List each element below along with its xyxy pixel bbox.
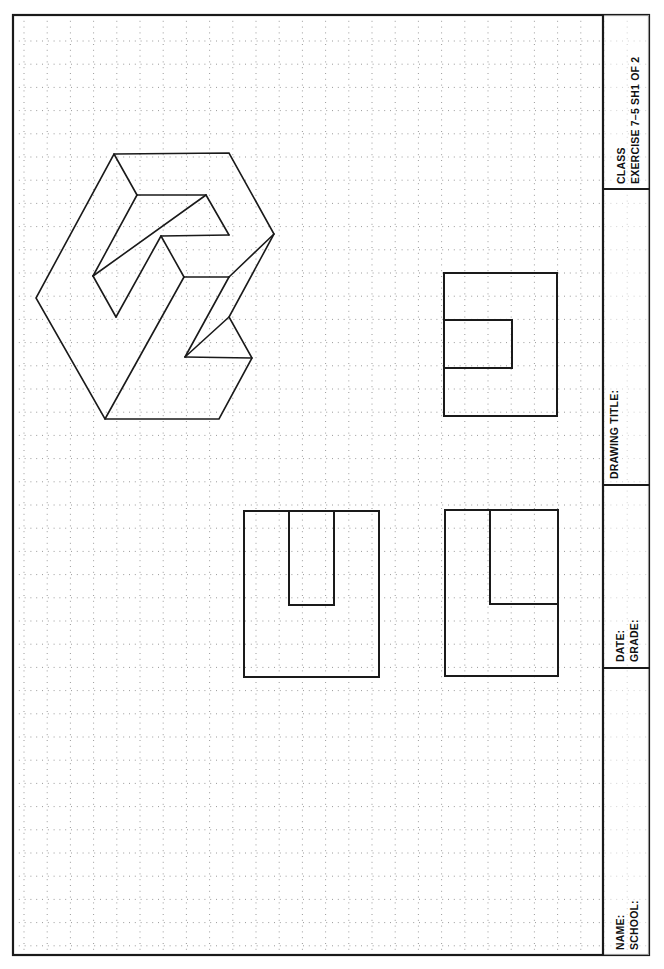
dot-grid bbox=[13, 15, 649, 955]
isometric-edge bbox=[161, 235, 229, 236]
side-view bbox=[445, 510, 558, 676]
isometric-edge bbox=[185, 357, 252, 358]
isometric-edge bbox=[206, 195, 229, 235]
date-label: DATE: bbox=[614, 630, 626, 662]
isometric-edge bbox=[114, 154, 137, 195]
isometric-view bbox=[36, 153, 274, 419]
isometric-edge bbox=[161, 236, 184, 277]
isometric-edge bbox=[93, 195, 137, 276]
top-view bbox=[444, 273, 557, 416]
isometric-outline bbox=[36, 153, 274, 419]
drawing-title-label: DRAWING TITLE: bbox=[608, 390, 620, 479]
isometric-edge bbox=[229, 234, 274, 277]
side-view-notch bbox=[490, 510, 558, 604]
isometric-edge bbox=[185, 317, 229, 357]
orthographic-views bbox=[244, 273, 558, 677]
front-view bbox=[244, 511, 379, 677]
grade-label: GRADE: bbox=[628, 619, 640, 662]
drawing-sheet bbox=[0, 0, 664, 969]
isometric-edge bbox=[185, 277, 229, 357]
school-label: SCHOOL: bbox=[628, 900, 640, 950]
sheet-border bbox=[13, 15, 649, 955]
class-label: CLASS bbox=[615, 147, 627, 184]
isometric-edge bbox=[105, 277, 184, 419]
name-label: NAME: bbox=[614, 915, 626, 950]
exercise-label: EXERCISE 7–5 SH1 OF 2 bbox=[629, 57, 641, 184]
front-view-slot bbox=[289, 511, 334, 605]
isometric-edge bbox=[116, 236, 161, 317]
top-view-inner bbox=[444, 320, 512, 368]
